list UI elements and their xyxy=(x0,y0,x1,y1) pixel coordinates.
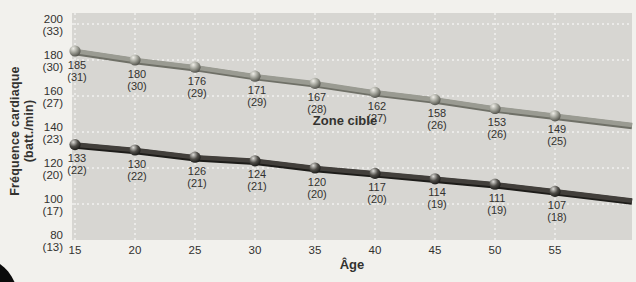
data-point-marker xyxy=(189,62,200,73)
point-label: 120 xyxy=(308,176,326,188)
x-tick-label: 30 xyxy=(249,244,262,256)
point-label: 162 xyxy=(368,100,386,112)
point-label: 158 xyxy=(428,107,446,119)
y-tick-sublabel: (27) xyxy=(43,97,64,109)
data-point-marker xyxy=(249,155,260,166)
point-label: 130 xyxy=(128,158,146,170)
y-axis-title-line2: (batt./min) xyxy=(22,55,36,207)
y-tick-label: 80 xyxy=(50,229,63,241)
x-tick-label: 20 xyxy=(129,244,142,256)
chart-svg: 185(31)180(30)176(29)171(29)167(28)162(2… xyxy=(0,0,636,282)
y-tick-label: 160 xyxy=(44,85,63,97)
data-point-marker xyxy=(489,179,500,190)
data-point-marker xyxy=(549,110,560,121)
point-sublabel: (26) xyxy=(487,128,507,140)
heart-rate-age-chart: 185(31)180(30)176(29)171(29)167(28)162(2… xyxy=(0,0,636,282)
point-sublabel: (26) xyxy=(427,119,447,131)
point-label: 117 xyxy=(368,181,386,193)
point-label: 114 xyxy=(428,186,446,198)
point-sublabel: (21) xyxy=(247,180,267,192)
page-corner-decoration xyxy=(0,264,15,282)
x-axis-title: Âge xyxy=(312,257,392,272)
y-axis-title-line1: Fréquence cardiaque xyxy=(8,55,22,207)
y-tick-sublabel: (20) xyxy=(43,169,64,181)
point-sublabel: (19) xyxy=(427,198,447,210)
point-label: 153 xyxy=(488,116,506,128)
point-sublabel: (21) xyxy=(187,177,207,189)
point-sublabel: (30) xyxy=(127,80,147,92)
y-tick-sublabel: (17) xyxy=(43,205,64,217)
point-sublabel: (19) xyxy=(487,204,507,216)
data-point-marker xyxy=(429,94,440,105)
y-tick-sublabel: (13) xyxy=(43,241,64,253)
x-tick-label: 45 xyxy=(429,244,442,256)
x-tick-label: 25 xyxy=(189,244,202,256)
x-tick-label: 50 xyxy=(489,244,502,256)
point-sublabel: (20) xyxy=(367,193,387,205)
x-tick-label: 15 xyxy=(69,244,82,256)
zone-cible-label: Zone cible xyxy=(285,113,405,128)
point-sublabel: (25) xyxy=(547,135,567,147)
data-point-marker xyxy=(369,87,380,98)
data-point-marker xyxy=(489,103,500,114)
point-sublabel: (29) xyxy=(247,96,267,108)
data-point-marker xyxy=(129,54,140,65)
data-point-marker xyxy=(549,186,560,197)
data-point-marker xyxy=(309,78,320,89)
y-tick-sublabel: (30) xyxy=(43,61,64,73)
point-label: 149 xyxy=(548,123,566,135)
y-tick-label: 100 xyxy=(44,193,63,205)
data-point-marker xyxy=(69,45,80,56)
data-point-marker xyxy=(69,139,80,150)
point-sublabel: (22) xyxy=(127,170,147,182)
data-point-marker xyxy=(189,152,200,163)
y-tick-label: 140 xyxy=(44,121,63,133)
point-label: 124 xyxy=(248,168,266,180)
point-label: 185 xyxy=(68,59,86,71)
x-tick-label: 40 xyxy=(369,244,382,256)
point-sublabel: (18) xyxy=(547,211,567,223)
point-sublabel: (22) xyxy=(67,164,87,176)
data-point-marker xyxy=(129,144,140,155)
y-tick-sublabel: (33) xyxy=(43,25,64,37)
point-label: 180 xyxy=(128,68,146,80)
data-point-marker xyxy=(309,162,320,173)
point-label: 176 xyxy=(188,75,206,87)
y-tick-label: 200 xyxy=(44,13,63,25)
data-point-marker xyxy=(369,168,380,179)
point-sublabel: (29) xyxy=(187,87,207,99)
data-point-marker xyxy=(249,71,260,82)
point-label: 133 xyxy=(68,152,86,164)
x-tick-label: 55 xyxy=(549,244,562,256)
point-label: 171 xyxy=(248,84,266,96)
y-axis-title: Fréquence cardiaque (batt./min) xyxy=(8,55,36,207)
y-tick-sublabel: (23) xyxy=(43,133,64,145)
point-sublabel: (31) xyxy=(67,71,87,83)
x-tick-label: 35 xyxy=(309,244,322,256)
data-point-marker xyxy=(429,173,440,184)
point-label: 111 xyxy=(489,192,506,204)
point-label: 167 xyxy=(308,91,326,103)
y-tick-label: 180 xyxy=(44,49,63,61)
point-label: 107 xyxy=(548,199,566,211)
y-tick-label: 120 xyxy=(44,157,63,169)
point-label: 126 xyxy=(188,165,206,177)
point-sublabel: (20) xyxy=(307,188,327,200)
